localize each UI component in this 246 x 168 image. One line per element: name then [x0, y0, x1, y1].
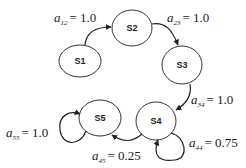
state-s5: S5	[79, 100, 121, 136]
arrow-s4-s5	[112, 134, 142, 141]
arrow-s1-s2	[85, 27, 111, 45]
state-s2: S2	[112, 10, 152, 46]
label-a55: a55= 1.0	[6, 125, 48, 142]
state-s1-label: S1	[74, 56, 85, 66]
state-s4-label: S4	[150, 116, 161, 126]
label-a12: a12= 1.0	[54, 10, 96, 27]
markov-chain-diagram: S1 S2 S3 S4 S5 a12= 1.0 a23= 1.0 a34= 1.…	[0, 0, 246, 168]
label-a44: a44= 0.75	[189, 135, 238, 152]
state-s3-label: S3	[176, 60, 187, 70]
arrow-s3-s4	[176, 84, 190, 110]
state-s2-label: S2	[126, 23, 137, 33]
diagram-svg: S1 S2 S3 S4 S5 a12= 1.0 a23= 1.0 a34= 1.…	[0, 0, 246, 168]
label-a23: a23= 1.0	[167, 10, 209, 27]
label-a34: a34= 1.0	[191, 92, 233, 109]
state-s3: S3	[162, 46, 202, 84]
state-s1: S1	[59, 45, 101, 77]
label-a45: a45= 0.25	[92, 148, 141, 165]
state-s5-label: S5	[94, 113, 105, 123]
